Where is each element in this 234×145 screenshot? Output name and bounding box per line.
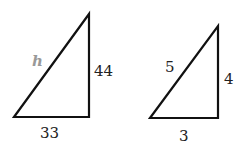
triangle-large: [14, 14, 89, 117]
label-base-large: 33: [40, 124, 59, 142]
triangle-small: [150, 26, 218, 118]
label-vertical-small: 4: [224, 70, 234, 88]
label-base-small: 3: [179, 127, 189, 145]
label-vertical-large: 44: [94, 62, 113, 80]
label-hypotenuse-small: 5: [165, 58, 175, 76]
label-hypotenuse-large: h: [32, 52, 43, 70]
similar-triangles-diagram: h 44 33 5 4 3: [0, 0, 234, 145]
